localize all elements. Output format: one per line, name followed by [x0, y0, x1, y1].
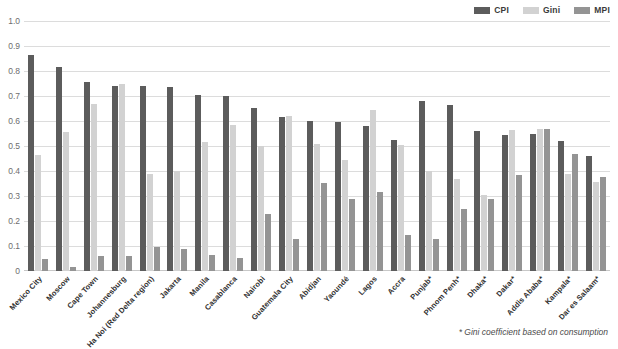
bar-cpi[interactable]	[586, 156, 592, 271]
bar-gini[interactable]	[537, 129, 543, 272]
bar-gini[interactable]	[91, 104, 97, 271]
x-axis-tick-label: Abidjan	[298, 275, 323, 301]
bar-cpi[interactable]	[447, 105, 453, 271]
x-axis-tick-label: Accra	[386, 275, 406, 296]
bar-cpi[interactable]	[167, 87, 173, 271]
bar-mpi[interactable]	[126, 256, 132, 271]
bar-gini[interactable]	[509, 130, 515, 271]
bar-mpi[interactable]	[377, 192, 383, 271]
bar-gini[interactable]	[63, 132, 69, 272]
bar-group	[359, 21, 387, 271]
bar-mpi[interactable]	[154, 247, 160, 271]
bar-gini[interactable]	[593, 182, 599, 271]
x-axis-tick-label: Moscow	[45, 275, 71, 303]
bar-cpi[interactable]	[335, 122, 341, 271]
bar-cpi[interactable]	[223, 96, 229, 271]
legend-entry-cpi[interactable]: CPI	[474, 6, 509, 15]
bar-mpi[interactable]	[461, 209, 467, 272]
bar-mpi[interactable]	[405, 235, 411, 271]
x-axis-tick-label: Dhaka*	[466, 275, 490, 299]
y-axis-tick-label: 0.2	[8, 217, 20, 226]
legend-swatch-icon	[474, 7, 490, 14]
x-axis-tick-label: Dakar*	[496, 275, 518, 298]
bar-cpi[interactable]	[558, 141, 564, 271]
x-axis-tick-label: Nairobi	[243, 275, 267, 300]
bar-mpi[interactable]	[98, 256, 104, 271]
bar-gini[interactable]	[481, 195, 487, 271]
bar-group	[387, 21, 415, 271]
bar-group	[80, 21, 108, 271]
bar-group	[415, 21, 443, 271]
bar-gini[interactable]	[342, 160, 348, 271]
bar-gini[interactable]	[147, 174, 153, 272]
bar-gini[interactable]	[426, 171, 432, 271]
bar-cpi[interactable]	[474, 131, 480, 271]
bar-group	[498, 21, 526, 271]
bar-mpi[interactable]	[433, 239, 439, 271]
chart-legend: CPIGiniMPI	[474, 3, 610, 17]
bar-cpi[interactable]	[502, 135, 508, 271]
bar-gini[interactable]	[314, 144, 320, 272]
legend-label: CPI	[494, 6, 509, 15]
bar-mpi[interactable]	[488, 199, 494, 272]
x-axis-tick-label: Mexico City	[8, 275, 43, 312]
bar-cpi[interactable]	[419, 101, 425, 271]
bar-cpi[interactable]	[56, 67, 62, 271]
bar-gini[interactable]	[398, 145, 404, 271]
bar-mpi[interactable]	[237, 258, 243, 271]
bar-cpi[interactable]	[28, 55, 34, 271]
bar-mpi[interactable]	[544, 129, 550, 272]
bar-gini[interactable]	[370, 110, 376, 271]
bar-gini[interactable]	[565, 174, 571, 272]
x-axis-tick-label: Manila	[189, 275, 211, 298]
bar-cpi[interactable]	[251, 108, 257, 271]
bar-mpi[interactable]	[181, 249, 187, 271]
bar-group	[275, 21, 303, 271]
chart-footnote: * Gini coefficient based on consumption	[459, 327, 608, 337]
bar-group	[52, 21, 80, 271]
bar-mpi[interactable]	[349, 199, 355, 272]
x-axis-tick-label: Punjab*	[409, 275, 434, 301]
bar-gini[interactable]	[174, 171, 180, 271]
bar-group	[24, 21, 52, 271]
legend-entry-gini[interactable]: Gini	[523, 6, 560, 15]
bar-cpi[interactable]	[112, 86, 118, 272]
bar-group	[247, 21, 275, 271]
bar-gini[interactable]	[202, 142, 208, 271]
legend-swatch-icon	[574, 7, 590, 14]
bar-group	[136, 21, 164, 271]
legend-label: Gini	[543, 6, 560, 15]
bar-gini[interactable]	[258, 146, 264, 271]
bar-group	[526, 21, 554, 271]
bar-cpi[interactable]	[363, 126, 369, 271]
bar-cpi[interactable]	[279, 117, 285, 271]
y-axis-tick-label: 0.1	[8, 242, 20, 251]
bar-cpi[interactable]	[84, 82, 90, 271]
bar-group	[303, 21, 331, 271]
bar-cpi[interactable]	[391, 140, 397, 271]
bar-mpi[interactable]	[209, 255, 215, 272]
bar-gini[interactable]	[119, 84, 125, 272]
legend-swatch-icon	[523, 7, 539, 14]
bar-mpi[interactable]	[70, 267, 76, 271]
bar-gini[interactable]	[230, 125, 236, 272]
bar-gini[interactable]	[454, 179, 460, 272]
x-axis-tick-label: Jakarta	[159, 275, 183, 300]
y-axis-tick-label: 0.8	[8, 67, 20, 76]
bar-mpi[interactable]	[600, 177, 606, 271]
bar-mpi[interactable]	[572, 154, 578, 272]
bar-mpi[interactable]	[321, 183, 327, 271]
bar-mpi[interactable]	[293, 239, 299, 271]
bar-group	[443, 21, 471, 271]
bar-gini[interactable]	[286, 116, 292, 271]
bar-mpi[interactable]	[516, 175, 522, 271]
bar-cpi[interactable]	[140, 86, 146, 272]
bar-gini[interactable]	[35, 155, 41, 271]
bar-mpi[interactable]	[42, 259, 48, 272]
bar-cpi[interactable]	[530, 134, 536, 272]
legend-entry-mpi[interactable]: MPI	[574, 6, 610, 15]
bar-mpi[interactable]	[265, 214, 271, 272]
legend-label: MPI	[594, 6, 610, 15]
bar-cpi[interactable]	[307, 121, 313, 271]
bar-cpi[interactable]	[195, 95, 201, 271]
